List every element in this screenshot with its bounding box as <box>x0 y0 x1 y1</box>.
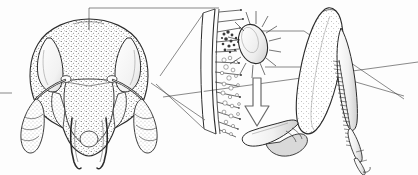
labrum <box>80 131 98 147</box>
illustration-canvas <box>0 0 418 175</box>
illustration-figure <box>0 0 418 175</box>
